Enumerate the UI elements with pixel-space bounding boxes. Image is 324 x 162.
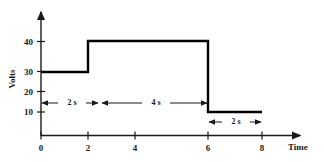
chart-canvas bbox=[0, 0, 324, 162]
x-tick-label-6: 6 bbox=[200, 143, 216, 153]
x-tick-label-4: 4 bbox=[127, 143, 143, 153]
y-axis-title: Volts bbox=[7, 55, 17, 103]
dim-label-middle: 4 s bbox=[142, 98, 170, 107]
x-axis-title: Time bbox=[288, 142, 308, 152]
x-tick-label-8: 8 bbox=[254, 143, 270, 153]
x-tick-label-2: 2 bbox=[80, 143, 96, 153]
dim-label-first: 2 s bbox=[58, 98, 86, 107]
x-tick-label-0: 0 bbox=[33, 143, 49, 153]
chart-figure: 10 20 30 40 0 2 4 6 8 2 s 4 s 2 s Volts … bbox=[0, 0, 324, 162]
y-tick-label-40: 40 bbox=[11, 37, 33, 47]
y-tick-label-10: 10 bbox=[11, 107, 33, 117]
dim-label-last: 2 s bbox=[222, 117, 250, 126]
